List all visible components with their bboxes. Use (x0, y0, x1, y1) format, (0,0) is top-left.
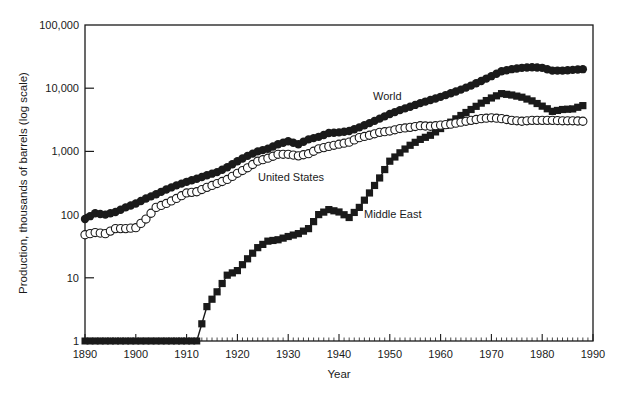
square-marker (356, 204, 363, 211)
open-circle-marker (579, 117, 587, 125)
square-marker (203, 303, 210, 310)
x-tick-label: 1990 (581, 348, 605, 360)
square-marker (219, 280, 226, 287)
x-tick-label: 1920 (225, 348, 249, 360)
x-tick-label: 1950 (378, 348, 402, 360)
series-label-united-states: United States (258, 171, 325, 183)
square-marker (371, 182, 378, 189)
x-tick-label: 1890 (73, 348, 97, 360)
square-marker (361, 197, 368, 204)
x-tick-label: 1940 (327, 348, 351, 360)
square-marker (213, 288, 220, 295)
x-tick-label: 1910 (174, 348, 198, 360)
square-marker (193, 338, 200, 345)
y-axis-title: Production, thousands of barrels (log sc… (17, 72, 29, 294)
y-tick-label: 10,000 (45, 82, 79, 94)
y-tick-label: 100 (61, 209, 79, 221)
series-middle-east (82, 90, 587, 344)
square-marker (208, 296, 215, 303)
x-tick-label: 1980 (530, 348, 554, 360)
y-axis: 1101001,00010,000100,000 (39, 19, 94, 347)
filled-circle-marker (579, 65, 587, 73)
square-marker (310, 218, 317, 225)
series-label-middle-east: Middle East (364, 208, 421, 220)
x-tick-label: 1970 (479, 348, 503, 360)
x-axis-title: Year (327, 368, 350, 380)
series-layer (81, 63, 587, 345)
square-marker (366, 189, 373, 196)
oil-production-chart: 1101001,00010,000100,000 189019001910192… (0, 0, 619, 395)
square-marker (381, 166, 388, 173)
y-tick-label: 100,000 (39, 19, 79, 31)
y-tick-label: 10 (67, 272, 79, 284)
x-tick-label: 1900 (124, 348, 148, 360)
series-label-world: World (373, 90, 402, 102)
square-marker (198, 320, 205, 327)
y-tick-label: 1,000 (51, 145, 79, 157)
square-marker (376, 174, 383, 181)
x-tick-label: 1930 (276, 348, 300, 360)
square-marker (305, 225, 312, 232)
y-tick-label: 1 (73, 335, 79, 347)
x-tick-label: 1960 (428, 348, 452, 360)
square-marker (579, 102, 586, 109)
